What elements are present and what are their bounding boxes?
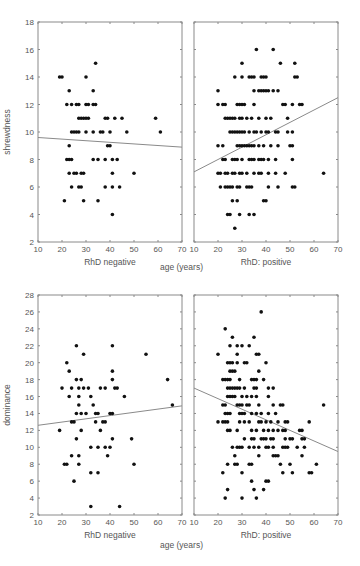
panel-label: RhD negative	[84, 257, 136, 267]
data-point	[111, 213, 115, 217]
data-point	[286, 116, 290, 120]
data-point	[77, 462, 81, 466]
y-tick-label: 4	[30, 494, 35, 503]
data-point	[70, 454, 74, 458]
data-point	[243, 103, 247, 107]
data-point	[252, 103, 256, 107]
data-point	[283, 437, 287, 441]
data-point	[271, 446, 275, 450]
data-point	[60, 75, 64, 79]
data-point	[89, 471, 93, 475]
data-point	[247, 213, 251, 217]
data-point	[72, 420, 76, 424]
data-point	[65, 462, 69, 466]
data-point	[255, 429, 259, 433]
data-point	[223, 103, 227, 107]
data-point	[269, 144, 273, 148]
data-point	[283, 171, 287, 175]
data-point	[259, 130, 263, 134]
x-tick-label: 30	[238, 245, 247, 254]
data-point	[111, 185, 115, 189]
y-axis-label: shrewdness	[2, 109, 12, 154]
data-point	[267, 479, 271, 483]
data-point	[307, 420, 311, 424]
data-point	[223, 496, 227, 500]
data-point	[60, 386, 64, 390]
data-point	[250, 412, 254, 416]
data-point	[271, 429, 275, 433]
data-point	[274, 158, 278, 162]
data-point	[267, 395, 271, 399]
data-point	[252, 158, 256, 162]
data-point	[276, 420, 280, 424]
data-point	[252, 213, 256, 217]
y-tick-label: 10	[25, 128, 34, 137]
data-point	[94, 103, 98, 107]
data-point	[286, 446, 290, 450]
data-point	[91, 158, 95, 162]
data-point	[226, 420, 230, 424]
data-point	[255, 395, 259, 399]
data-point	[63, 199, 67, 203]
data-point	[262, 488, 266, 492]
x-tick-label: 20	[214, 245, 223, 254]
data-point	[231, 199, 235, 203]
data-point	[243, 420, 247, 424]
data-point	[111, 158, 115, 162]
data-point	[75, 344, 79, 348]
data-point	[96, 471, 100, 475]
data-point	[87, 103, 91, 107]
data-point	[118, 505, 122, 509]
data-point	[238, 386, 242, 390]
scatter-panel-top-left: 1020304050607024681012141618RhD negative…	[2, 18, 187, 267]
data-point	[231, 446, 235, 450]
data-point	[233, 116, 237, 120]
data-point	[271, 437, 275, 441]
data-point	[264, 437, 268, 441]
data-point	[247, 130, 251, 134]
x-tick-label: 60	[154, 245, 163, 254]
y-tick-label: 6	[30, 477, 35, 486]
data-point	[250, 462, 254, 466]
data-point	[75, 378, 79, 382]
x-tick-label: 20	[214, 518, 223, 527]
data-point	[262, 378, 266, 382]
data-point	[132, 462, 136, 466]
data-point	[58, 429, 62, 433]
data-point	[221, 471, 225, 475]
data-point	[271, 48, 275, 52]
data-point	[255, 130, 259, 134]
data-point	[243, 386, 247, 390]
data-point	[286, 130, 290, 134]
scatter-panel-bottom-left: 10203040506070246810121416182022242628Rh…	[2, 291, 187, 540]
data-point	[123, 395, 127, 399]
data-point	[82, 386, 86, 390]
data-point	[240, 171, 244, 175]
data-point	[310, 471, 314, 475]
panel-label: RhD negative	[84, 530, 136, 540]
data-point	[257, 352, 261, 356]
y-tick-label: 22	[25, 342, 34, 351]
data-point	[240, 116, 244, 120]
data-point	[216, 420, 220, 424]
panel-label: RhD: positive	[241, 257, 292, 267]
x-tick-label: 60	[310, 245, 319, 254]
data-point	[111, 437, 115, 441]
data-point	[255, 378, 259, 382]
data-point	[262, 158, 266, 162]
data-point	[269, 420, 273, 424]
x-tick-label: 70	[178, 245, 187, 254]
data-point	[226, 462, 230, 466]
data-point	[89, 395, 93, 399]
y-tick-label: 18	[25, 18, 34, 27]
scatter-panel-bottom-right: 10203040506070RhD: positive	[190, 295, 343, 540]
data-point	[288, 462, 292, 466]
x-tick-label: 40	[262, 518, 271, 527]
data-point	[103, 158, 107, 162]
data-point	[252, 171, 256, 175]
data-point	[267, 89, 271, 93]
data-point	[96, 412, 100, 416]
data-point	[233, 226, 237, 230]
data-point	[70, 158, 74, 162]
data-point	[267, 446, 271, 450]
